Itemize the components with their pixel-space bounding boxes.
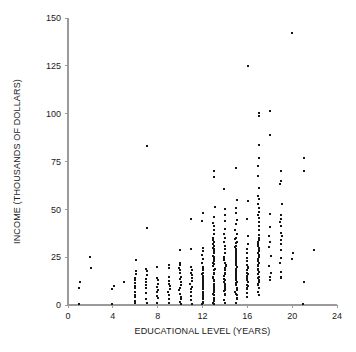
data-point — [258, 294, 260, 296]
data-point — [279, 183, 281, 185]
data-point — [291, 258, 293, 260]
x-tick-label: 16 — [242, 311, 252, 321]
data-point — [235, 282, 237, 284]
data-point — [202, 296, 204, 298]
data-point — [258, 115, 260, 117]
data-point — [224, 283, 226, 285]
data-point — [113, 285, 115, 287]
data-point — [191, 286, 193, 288]
data-point — [191, 269, 193, 271]
data-point — [257, 165, 259, 167]
y-tick-label: 75 — [51, 157, 61, 167]
data-point — [235, 279, 237, 281]
data-point — [235, 242, 237, 244]
data-point — [212, 265, 214, 267]
data-point — [135, 259, 137, 261]
data-point — [179, 287, 181, 289]
data-point — [280, 243, 282, 245]
data-point — [257, 175, 259, 177]
data-point — [246, 252, 248, 254]
x-tick-label: 12 — [197, 311, 207, 321]
data-point — [145, 287, 147, 289]
data-point — [180, 284, 182, 286]
data-point — [168, 267, 170, 269]
data-point — [235, 248, 237, 250]
data-point — [146, 227, 148, 229]
data-point — [157, 297, 159, 299]
data-point — [223, 233, 225, 235]
data-point — [235, 284, 237, 286]
data-point — [180, 298, 182, 300]
data-point — [146, 274, 148, 276]
data-point — [213, 252, 215, 254]
data-point — [213, 294, 215, 296]
y-tick-label: 150 — [46, 13, 61, 23]
data-point — [257, 260, 259, 262]
data-point — [202, 212, 204, 214]
data-point — [156, 277, 158, 279]
data-point — [303, 170, 305, 172]
data-point — [258, 225, 260, 227]
data-point — [190, 248, 192, 250]
data-point — [190, 295, 192, 297]
data-point — [202, 258, 204, 260]
data-point — [281, 203, 283, 205]
data-point — [168, 302, 170, 304]
data-point — [269, 279, 271, 281]
data-point — [235, 223, 237, 225]
data-point — [190, 288, 192, 290]
y-tick-label: 25 — [51, 252, 61, 262]
data-point — [145, 284, 147, 286]
data-point — [145, 292, 147, 294]
data-point — [213, 176, 215, 178]
data-point — [169, 288, 171, 290]
data-point — [201, 254, 203, 256]
data-point — [179, 301, 181, 303]
data-point — [246, 277, 248, 279]
data-point — [146, 145, 148, 147]
data-point — [145, 298, 147, 300]
data-point — [280, 225, 282, 227]
data-point — [292, 252, 294, 254]
data-point — [212, 243, 214, 245]
data-point — [235, 207, 237, 209]
data-point — [179, 272, 181, 274]
data-point — [213, 272, 215, 274]
data-point — [213, 285, 215, 287]
y-tick-label: 100 — [46, 109, 61, 119]
data-point — [246, 264, 248, 266]
data-point — [279, 262, 281, 264]
data-point — [168, 280, 170, 282]
data-point — [258, 234, 260, 236]
data-point — [191, 280, 193, 282]
data-point — [257, 265, 259, 267]
data-point — [257, 214, 259, 216]
data-point — [257, 291, 259, 293]
data-point — [235, 275, 237, 277]
data-point — [257, 269, 259, 271]
data-point — [235, 252, 237, 254]
data-point — [224, 228, 226, 230]
data-point — [258, 157, 260, 159]
data-point — [168, 276, 170, 278]
data-point — [202, 281, 204, 283]
data-point — [234, 238, 236, 240]
data-point — [191, 303, 193, 305]
data-point — [247, 200, 249, 202]
data-point — [236, 199, 238, 201]
data-point — [156, 295, 158, 297]
data-point — [202, 247, 204, 249]
data-point — [236, 289, 238, 291]
y-tick-label: 125 — [46, 61, 61, 71]
data-point — [191, 274, 193, 276]
data-point — [213, 216, 215, 218]
data-point — [202, 291, 204, 293]
data-point — [258, 254, 260, 256]
data-point — [235, 264, 237, 266]
data-point — [180, 276, 182, 278]
data-point — [134, 279, 136, 281]
data-point — [180, 303, 182, 305]
data-point — [213, 298, 215, 300]
data-point — [258, 250, 260, 252]
y-tick-label: 50 — [51, 205, 61, 215]
